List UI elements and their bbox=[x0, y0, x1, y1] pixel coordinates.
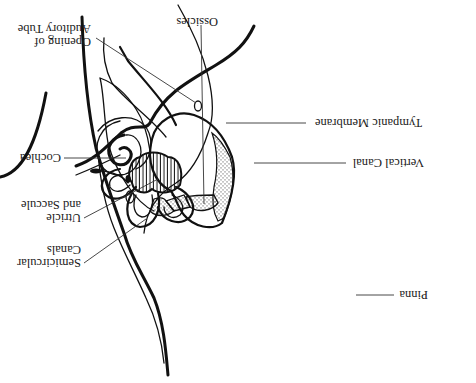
label-opening-line2: Auditory Tube bbox=[17, 22, 91, 36]
diagram-canvas: Ossicles Opening of Auditory Tube Cochle… bbox=[0, 0, 476, 383]
label-utricle-line2: and Saccule bbox=[21, 198, 81, 212]
label-semicircular-line1: Semicircular bbox=[16, 256, 81, 270]
auditory-tube-wall bbox=[103, 38, 166, 137]
leader-utricle bbox=[84, 179, 158, 218]
nerve-mark-1 bbox=[90, 169, 102, 174]
nerve-mark-2 bbox=[126, 175, 131, 183]
label-semicircular-line2: Canals bbox=[47, 243, 81, 257]
label-tympanic-membrane: Tympanic Membrane bbox=[314, 116, 422, 130]
label-utricle-line1: Utricle bbox=[46, 211, 81, 225]
label-pinna: Pinna bbox=[399, 288, 428, 302]
label-ossicles: Ossicles bbox=[176, 15, 218, 29]
leader-opening bbox=[96, 38, 196, 103]
leader-ossicles bbox=[201, 25, 204, 204]
leader-semicircular bbox=[84, 219, 146, 263]
label-cochlea: Cochlea bbox=[20, 151, 61, 165]
label-vertical-canal: Vertical Canal bbox=[352, 156, 424, 170]
tympanic-membrane bbox=[212, 133, 233, 221]
ear-anatomy-diagram: Ossicles Opening of Auditory Tube Cochle… bbox=[0, 0, 476, 383]
utricle-and-saccule bbox=[129, 153, 181, 193]
rotated-drawing: Ossicles Opening of Auditory Tube Cochle… bbox=[0, 5, 428, 375]
label-opening-line1: Opening of bbox=[34, 35, 91, 49]
